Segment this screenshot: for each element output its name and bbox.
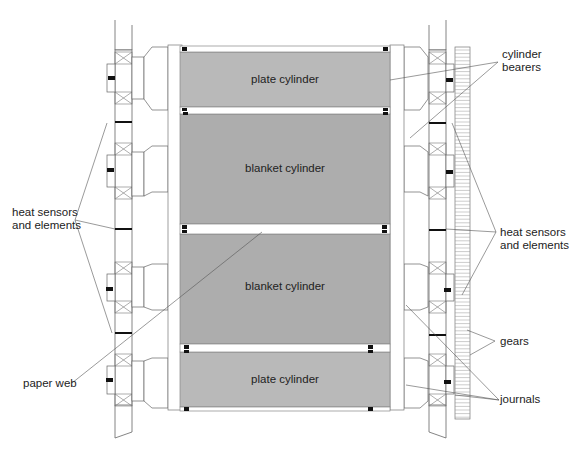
callout-journals: journals (500, 393, 540, 406)
cylinder-label-plate-bottom: plate cylinder (180, 373, 390, 385)
callout-line: cylinder (502, 48, 542, 61)
gear-stack (455, 47, 470, 419)
left-frame-bottom (115, 405, 132, 438)
cylinder-label-blanket-lower: blanket cylinder (180, 280, 390, 292)
left-frame (115, 50, 132, 405)
cylinder-label-blanket-upper: blanket cylinder (180, 162, 390, 174)
callout-cylinder-bearers: cylinder bearers (502, 48, 542, 74)
callout-line: bearers (502, 61, 542, 74)
right-frame-top (429, 20, 446, 50)
callout-heat-sensors-right: heat sensors and elements (500, 226, 569, 252)
cylinders (180, 46, 390, 411)
callout-paper-web: paper web (23, 377, 77, 390)
left-frame-top (115, 20, 132, 50)
callout-line: heat sensors (500, 226, 569, 239)
callout-heat-sensors-left: heat sensors and elements (12, 206, 74, 232)
right-frame-bottom (429, 405, 446, 438)
right-frame (429, 50, 446, 405)
callout-line: and elements (12, 219, 74, 232)
callout-line: heat sensors (12, 206, 74, 219)
callout-line: and elements (500, 239, 569, 252)
callout-gears: gears (500, 335, 529, 348)
cylinder-label-plate-top: plate cylinder (180, 73, 390, 85)
